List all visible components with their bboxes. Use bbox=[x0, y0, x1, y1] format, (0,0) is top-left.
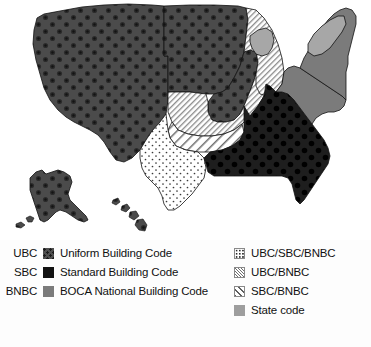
legend-swatch-ubc-icon bbox=[43, 248, 54, 259]
legend-abbr-bnbc: BNBC bbox=[4, 286, 37, 298]
legend-item-sbc: SBC Standard Building Code bbox=[4, 263, 219, 282]
legend-item-ubc: UBC Uniform Building Code bbox=[4, 244, 219, 263]
legend-swatch-ubc-sbc-bnbc-icon bbox=[234, 248, 245, 259]
map-legend: UBC Uniform Building Code SBC Standard B… bbox=[0, 244, 371, 347]
legend-abbr-ubc: UBC bbox=[4, 248, 37, 260]
legend-swatch-sbc-icon bbox=[43, 267, 54, 278]
us-map-svg bbox=[0, 0, 371, 240]
legend-item-bnbc: BNBC BOCA National Building Code bbox=[4, 282, 219, 301]
legend-item-ubc-bnbc: UBC/BNBC bbox=[234, 263, 371, 282]
legend-item-sbc-bnbc: SBC/BNBC bbox=[234, 282, 371, 301]
legend-swatch-ubc-bnbc-icon bbox=[234, 267, 245, 278]
legend-abbr-sbc: SBC bbox=[4, 267, 37, 279]
legend-label-ubc-bnbc: UBC/BNBC bbox=[251, 267, 309, 279]
legend-swatch-sbc-bnbc-icon bbox=[234, 286, 245, 297]
building-code-map-figure: UBC Uniform Building Code SBC Standard B… bbox=[0, 0, 371, 347]
legend-item-ubc-sbc-bnbc: UBC/SBC/BNBC bbox=[234, 244, 371, 263]
legend-label-ubc: Uniform Building Code bbox=[60, 248, 172, 260]
legend-item-state-code: State code bbox=[234, 301, 371, 320]
legend-label-ubc-sbc-bnbc: UBC/SBC/BNBC bbox=[251, 248, 335, 260]
legend-left-column: UBC Uniform Building Code SBC Standard B… bbox=[4, 244, 219, 301]
map-area bbox=[0, 0, 371, 240]
legend-label-sbc-bnbc: SBC/BNBC bbox=[251, 286, 309, 298]
legend-right-column: UBC/SBC/BNBC UBC/BNBC SBC/BNBC State cod… bbox=[234, 244, 371, 320]
legend-swatch-bnbc-icon bbox=[43, 286, 54, 297]
legend-label-bnbc: BOCA National Building Code bbox=[60, 286, 208, 298]
legend-swatch-state-code-icon bbox=[234, 305, 245, 316]
legend-label-sbc: Standard Building Code bbox=[60, 267, 178, 279]
legend-label-state-code: State code bbox=[251, 305, 305, 317]
